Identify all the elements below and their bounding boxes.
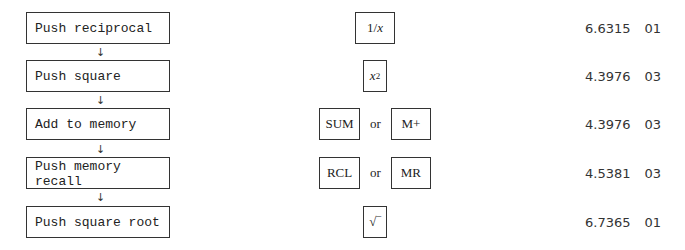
display-value-5: 6.736501 (585, 206, 661, 238)
step-push-memory-recall: Push memory recall (26, 157, 170, 189)
step-label: Push square (35, 69, 121, 84)
step-push-reciprocal: Push reciprocal (26, 12, 170, 44)
keys-row-1: 1/x (290, 12, 460, 44)
step-label: Add to memory (35, 117, 136, 132)
sum-key: SUM (319, 108, 360, 140)
keys-row-2: x2 (290, 60, 460, 92)
keys-row-4: RCL or MR (290, 157, 460, 189)
square-root-key: √‾ (363, 206, 387, 238)
down-arrow-icon: ↓ (96, 192, 105, 203)
step-label: Push reciprocal (35, 21, 152, 36)
down-arrow-icon: ↓ (96, 47, 105, 58)
square-key: x2 (363, 60, 387, 92)
step-push-square-root: Push square root (26, 206, 170, 238)
down-arrow-icon: ↓ (96, 95, 105, 106)
display-value-4: 4.538103 (585, 157, 661, 189)
display-value-1: 6.631501 (585, 12, 661, 44)
step-add-to-memory: Add to memory (26, 108, 170, 140)
display-value-3: 4.397603 (585, 108, 661, 140)
down-arrow-icon: ↓ (96, 144, 105, 155)
rcl-key: RCL (319, 157, 360, 189)
step-label-line1: Push memory (35, 159, 121, 174)
keys-row-5: √‾ (290, 206, 460, 238)
m-plus-key: M+ (391, 108, 431, 140)
step-label: Push square root (35, 215, 160, 230)
reciprocal-key: 1/x (355, 12, 395, 44)
or-label: or (370, 165, 381, 181)
mr-key: MR (391, 157, 431, 189)
step-label-line2: recall (35, 174, 82, 189)
or-label: or (370, 116, 381, 132)
display-value-2: 4.397603 (585, 60, 661, 92)
keys-row-3: SUM or M+ (290, 108, 460, 140)
square-root-icon: √‾ (369, 214, 380, 230)
step-push-square: Push square (26, 60, 170, 92)
